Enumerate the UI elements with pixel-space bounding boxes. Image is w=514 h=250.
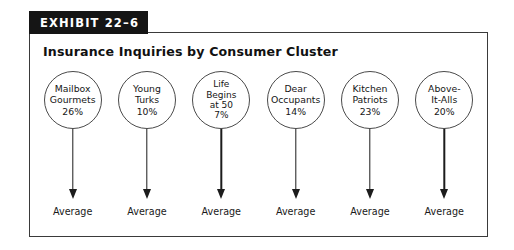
cluster-circle[interactable]: DearOccupants14% xyxy=(267,71,325,129)
cluster-name-line: Mailbox xyxy=(55,83,91,94)
exhibit-number-banner: EXHIBIT 22–6 xyxy=(29,11,148,34)
figure-title: Insurance Inquiries by Consumer Cluster xyxy=(43,44,338,59)
arrow-head xyxy=(366,189,374,199)
cluster-outcome-label: Average xyxy=(276,206,315,217)
cluster-column: YoungTurks10%Average xyxy=(110,71,183,229)
cluster-circle[interactable]: Above-It-Alls20% xyxy=(415,71,473,129)
cluster-name-line: Young xyxy=(133,83,161,94)
cluster-name-line: Above- xyxy=(428,83,461,94)
cluster-name-line: Gourmets xyxy=(50,94,96,105)
arrow-shaft xyxy=(444,128,445,192)
cluster-column: LifeBeginsat 507%Average xyxy=(185,71,258,229)
arrow-shaft xyxy=(369,128,370,192)
cluster-percentage: 7% xyxy=(214,110,228,120)
cluster-circle[interactable]: LifeBeginsat 507% xyxy=(192,71,250,129)
exhibit-figure: EXHIBIT 22–6 Insurance Inquiries by Cons… xyxy=(0,0,514,250)
cluster-name-line: Begins xyxy=(206,90,236,100)
cluster-name-line: Kitchen xyxy=(352,83,387,94)
cluster-name-line: Turks xyxy=(135,94,159,105)
down-arrow-icon xyxy=(365,128,374,202)
down-arrow-icon xyxy=(217,128,226,202)
arrow-shaft xyxy=(72,128,73,192)
arrow-head xyxy=(292,189,300,199)
cluster-name-line: at 50 xyxy=(210,100,233,110)
cluster-percentage: 20% xyxy=(434,106,455,117)
cluster-outcome-label: Average xyxy=(425,206,464,217)
cluster-circle[interactable]: YoungTurks10% xyxy=(118,71,176,129)
cluster-outcome-label: Average xyxy=(127,206,166,217)
down-arrow-icon xyxy=(440,128,449,202)
cluster-percentage: 26% xyxy=(62,106,83,117)
exhibit-number-label: EXHIBIT 22–6 xyxy=(29,16,139,30)
arrow-head xyxy=(440,189,448,199)
cluster-row: MailboxGourmets26%AverageYoungTurks10%Av… xyxy=(36,71,482,229)
arrow-head xyxy=(143,189,151,199)
arrow-shaft xyxy=(295,128,296,192)
cluster-name-line: Patriots xyxy=(352,94,387,105)
arrow-shaft xyxy=(146,128,147,192)
down-arrow-icon xyxy=(142,128,151,202)
arrow-head xyxy=(217,189,225,199)
cluster-name-line: It-Alls xyxy=(431,94,457,105)
down-arrow-icon xyxy=(68,128,77,202)
cluster-percentage: 14% xyxy=(285,106,306,117)
down-arrow-icon xyxy=(291,128,300,202)
arrow-shaft xyxy=(221,128,222,192)
cluster-column: Above-It-Alls20%Average xyxy=(408,71,481,229)
cluster-circle[interactable]: KitchenPatriots23% xyxy=(341,71,399,129)
cluster-outcome-label: Average xyxy=(202,206,241,217)
cluster-percentage: 10% xyxy=(137,106,158,117)
arrow-head xyxy=(69,189,77,199)
cluster-percentage: 23% xyxy=(360,106,381,117)
cluster-name-line: Life xyxy=(213,79,229,89)
cluster-column: DearOccupants14%Average xyxy=(259,71,332,229)
cluster-name-line: Occupants xyxy=(271,94,320,105)
cluster-column: MailboxGourmets26%Average xyxy=(36,71,109,229)
cluster-circle[interactable]: MailboxGourmets26% xyxy=(44,71,102,129)
cluster-column: KitchenPatriots23%Average xyxy=(333,71,406,229)
cluster-outcome-label: Average xyxy=(53,206,92,217)
cluster-name-line: Dear xyxy=(284,83,306,94)
cluster-outcome-label: Average xyxy=(350,206,389,217)
